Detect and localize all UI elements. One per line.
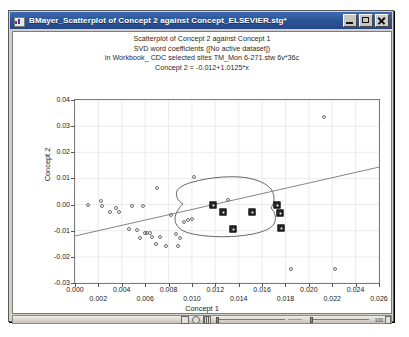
graph-canvas[interactable]: Scatterplot of Concept 2 against Concept… bbox=[12, 31, 392, 314]
graph-window: BMayer_Scatterplot of Concept 2 against … bbox=[8, 10, 394, 322]
y-tick bbox=[71, 126, 75, 127]
x-axis-label: 0.010 bbox=[183, 295, 201, 302]
x-axis-label: 0.026 bbox=[370, 295, 388, 302]
data-point[interactable] bbox=[192, 175, 196, 179]
plot-svg bbox=[75, 100, 379, 283]
x-axis-label: 0.022 bbox=[323, 295, 341, 302]
data-point[interactable] bbox=[141, 204, 145, 208]
data-point[interactable] bbox=[86, 203, 90, 207]
y-tick bbox=[71, 257, 75, 258]
y-axis-tick-labels: -0.03-0.02-0.010.000.010.020.030.04 bbox=[37, 99, 70, 284]
graph-status-toolbar[interactable]: 100 bbox=[12, 315, 392, 324]
y-tick bbox=[71, 231, 75, 232]
bars-tool-icon[interactable] bbox=[203, 316, 211, 324]
data-point[interactable] bbox=[174, 232, 178, 236]
window-titlebar[interactable]: BMayer_Scatterplot of Concept 2 against … bbox=[10, 12, 392, 29]
y-axis-label: -0.02 bbox=[54, 252, 70, 259]
chart-title-line-2: SVD word coefficients ([No active datase… bbox=[13, 44, 391, 54]
circle-tool-icon[interactable] bbox=[192, 316, 200, 324]
selected-data-point[interactable] bbox=[277, 225, 284, 232]
y-axis-label: 0.01 bbox=[56, 174, 70, 181]
y-tick bbox=[71, 100, 75, 101]
x-axis-label: 0.012 bbox=[207, 286, 225, 293]
data-point[interactable] bbox=[182, 220, 186, 224]
data-point[interactable] bbox=[155, 186, 159, 190]
slider-track bbox=[310, 319, 369, 320]
y-tick bbox=[71, 205, 75, 206]
selected-data-point[interactable] bbox=[229, 225, 236, 232]
window-title: BMayer_Scatterplot of Concept 2 against … bbox=[29, 16, 343, 25]
x-axis-title: Concept 1 bbox=[13, 304, 391, 313]
data-point[interactable] bbox=[99, 199, 103, 203]
y-axis-label: -0.01 bbox=[54, 226, 70, 233]
x-axis-label: 0.020 bbox=[300, 286, 318, 293]
slider-track bbox=[216, 319, 285, 320]
data-point[interactable] bbox=[114, 206, 118, 210]
chart-title-line-4: Concept 2 = -0.012+1.0125*x bbox=[13, 63, 391, 73]
y-axis-label: 0.04 bbox=[56, 96, 70, 103]
data-point[interactable] bbox=[322, 115, 326, 119]
toolbar-divider bbox=[288, 319, 302, 320]
x-axis-label: 0.002 bbox=[90, 295, 108, 302]
zoom-level-value: 100 bbox=[375, 317, 383, 323]
y-axis-label: 0.03 bbox=[56, 122, 70, 129]
x-axis-label: 0.008 bbox=[160, 286, 178, 293]
x-axis-label: 0.006 bbox=[136, 295, 154, 302]
maximize-button[interactable] bbox=[359, 14, 373, 27]
slider-thumb[interactable] bbox=[310, 317, 313, 323]
x-axis-label: 0.004 bbox=[113, 286, 131, 293]
selected-data-point[interactable] bbox=[209, 202, 216, 209]
x-axis-label: 0.024 bbox=[347, 286, 365, 293]
data-point[interactable] bbox=[176, 244, 180, 248]
x-axis-label: 0.018 bbox=[277, 295, 295, 302]
y-tick bbox=[71, 178, 75, 179]
plot-area[interactable] bbox=[74, 99, 380, 284]
horizontal-slider-1[interactable] bbox=[216, 317, 285, 323]
selected-data-point[interactable] bbox=[248, 209, 255, 216]
y-tick bbox=[71, 283, 75, 284]
close-button[interactable] bbox=[375, 14, 389, 27]
y-axis-label: -0.03 bbox=[54, 279, 70, 286]
data-point[interactable] bbox=[190, 217, 194, 221]
zoom-spinner[interactable] bbox=[385, 316, 391, 324]
grid-lines bbox=[75, 100, 379, 283]
data-point[interactable] bbox=[117, 210, 121, 214]
selected-data-point[interactable] bbox=[276, 209, 283, 216]
selection-lasso-outline bbox=[175, 177, 275, 237]
slider-thumb[interactable] bbox=[216, 317, 219, 323]
minimize-button[interactable] bbox=[343, 14, 357, 27]
data-point[interactable] bbox=[127, 227, 131, 231]
y-axis-label: 0.02 bbox=[56, 148, 70, 155]
data-point[interactable] bbox=[158, 235, 162, 239]
y-axis-label: 0.00 bbox=[56, 200, 70, 207]
data-point[interactable] bbox=[130, 204, 134, 208]
data-point[interactable] bbox=[226, 198, 230, 202]
data-point[interactable] bbox=[289, 267, 293, 271]
data-point[interactable] bbox=[150, 235, 154, 239]
selected-data-point[interactable] bbox=[274, 201, 281, 208]
data-point[interactable] bbox=[164, 244, 168, 248]
window-controls bbox=[343, 14, 389, 27]
chart-title-block: Scatterplot of Concept 2 against Concept… bbox=[13, 34, 391, 72]
statistica-graph-icon bbox=[13, 15, 25, 27]
data-point[interactable] bbox=[169, 213, 173, 217]
marker-tool-icon[interactable] bbox=[181, 316, 189, 324]
chart-title-line-1: Scatterplot of Concept 2 against Concept… bbox=[13, 34, 391, 44]
data-point[interactable] bbox=[138, 236, 142, 240]
x-axis-label: 0.000 bbox=[66, 286, 84, 293]
selected-data-point[interactable] bbox=[220, 209, 227, 216]
data-point[interactable] bbox=[154, 242, 158, 246]
toolbar-icon-group bbox=[181, 316, 211, 324]
data-point[interactable] bbox=[178, 236, 182, 240]
chart-title-line-3: in Workbook_ CDC selected sites TM_Mon 6… bbox=[13, 53, 391, 63]
data-point[interactable] bbox=[100, 204, 104, 208]
data-point[interactable] bbox=[333, 267, 337, 271]
horizontal-slider-2[interactable] bbox=[310, 317, 369, 323]
data-point[interactable] bbox=[135, 228, 139, 232]
x-axis-label: 0.016 bbox=[253, 286, 271, 293]
x-axis-label: 0.014 bbox=[230, 295, 248, 302]
data-point[interactable] bbox=[108, 210, 112, 214]
y-tick bbox=[71, 152, 75, 153]
